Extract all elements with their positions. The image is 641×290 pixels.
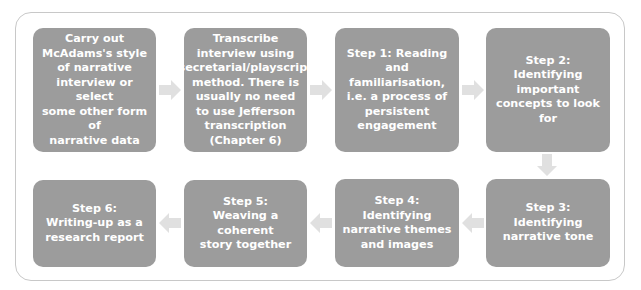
- box-label: Step 6: Writing-up as a research report: [45, 202, 144, 246]
- box-step-2: Step 2: Identifying important concepts t…: [486, 28, 610, 152]
- box-step-6: Step 6: Writing-up as a research report: [33, 180, 156, 267]
- arrow-left-icon: [310, 213, 332, 233]
- arrow-right-icon: [310, 80, 332, 100]
- box-label: Transcribe interview using secretarial/p…: [178, 32, 312, 148]
- arrow-left-icon: [159, 213, 181, 233]
- arrow-down-icon: [537, 154, 557, 176]
- box-step-1: Step 1: Reading and familiarisation, i.e…: [335, 28, 459, 152]
- box-label: Step 5: Weaving a coherent story togethe…: [187, 195, 304, 253]
- box-step-4: Step 4: Identifying narrative themes and…: [335, 179, 459, 267]
- arrow-left-icon: [462, 213, 484, 233]
- box-transcribe-interview: Transcribe interview using secretarial/p…: [184, 28, 307, 152]
- box-label: Step 1: Reading and familiarisation, i.e…: [338, 47, 456, 134]
- box-step-5: Step 5: Weaving a coherent story togethe…: [184, 180, 307, 267]
- box-step-3: Step 3: Identifying narrative tone: [486, 179, 610, 267]
- box-label: Step 3: Identifying narrative tone: [503, 201, 594, 245]
- arrow-right-icon: [462, 80, 484, 100]
- arrow-right-icon: [159, 80, 181, 100]
- box-carry-out-interview: Carry out McAdams's style of narrative i…: [33, 28, 156, 152]
- box-label: Step 2: Identifying important concepts t…: [496, 54, 600, 127]
- box-label: Carry out McAdams's style of narrative i…: [36, 32, 153, 148]
- box-label: Step 4: Identifying narrative themes and…: [343, 194, 452, 252]
